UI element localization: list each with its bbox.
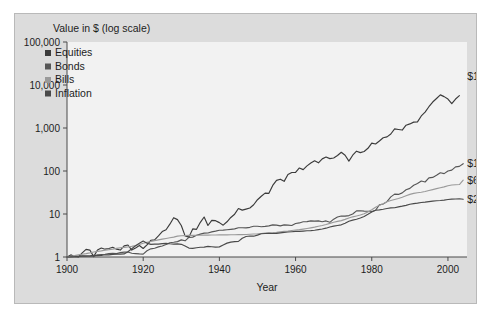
y-tick-label: 1,000 [35,123,60,134]
legend-swatch-bills [45,77,51,83]
x-tick-label: 1980 [361,264,384,275]
legend-swatch-bonds [45,64,51,70]
series-end-labels: $15,579$148$61$22 [467,70,476,205]
x-tick-label: 2000 [437,264,460,275]
x-tick-label: 1900 [56,264,79,275]
legend-label-bonds: Bonds [55,60,85,72]
legend-label-bills: Bills [55,73,74,85]
y-tick-label: 10 [49,209,61,220]
y-tick-label: 1 [54,252,60,263]
figure-root: 1101001,00010,000100,000 190019201940196… [0,0,491,318]
chart-plot-area: 1101001,00010,000100,000 190019201940196… [15,14,476,303]
y-tick-label: 100 [43,166,60,177]
x-tick-label: 1960 [284,264,307,275]
legend-label-inflation: Inflation [55,87,92,99]
plot-background [67,42,467,257]
legend-swatch-inflation [45,91,51,97]
end-label-bonds: $148 [467,157,476,169]
y-axis-title: Value in $ (log scale) [53,22,150,34]
x-axis-ticks: 190019201940196019802000 [56,257,460,275]
x-axis-title: Year [256,281,278,293]
legend-swatch-equities [45,50,51,56]
end-label-inflation: $22 [467,193,476,205]
x-tick-label: 1940 [208,264,231,275]
legend-label-equities: Equities [55,46,92,58]
end-label-bills: $61 [467,174,476,186]
x-tick-label: 1920 [132,264,155,275]
chart-panel: 1101001,00010,000100,000 190019201940196… [14,13,477,304]
end-label-equities: $15,579 [467,70,476,82]
